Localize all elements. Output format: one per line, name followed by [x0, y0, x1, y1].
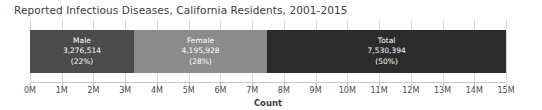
tick-label: 7M: [246, 86, 258, 95]
bar-segment-value: 4,195,928: [134, 46, 267, 57]
chart-container: Reported Infectious Diseases, California…: [0, 0, 542, 110]
chart-title: Reported Infectious Diseases, California…: [14, 4, 348, 16]
tick-label: 14M: [466, 86, 483, 95]
bar-segment-name: Female: [134, 36, 267, 47]
tick-label: 3M: [119, 86, 131, 95]
bar-segment-male[interactable]: Male3,276,514(22%): [30, 30, 134, 73]
tick-label: 12M: [402, 86, 419, 95]
tick-label: 9M: [310, 86, 322, 95]
bar-segment-labels: Male3,276,514(22%): [30, 36, 134, 68]
bar-segment-percent: (50%): [267, 57, 506, 68]
tick-label: 2M: [87, 86, 99, 95]
tick-label: 13M: [434, 86, 451, 95]
bar-segment-name: Total: [267, 36, 506, 47]
tick-label: 8M: [278, 86, 290, 95]
bar-segment-value: 7,530,394: [267, 46, 506, 57]
tick-label: 11M: [371, 86, 388, 95]
bar-segment-total[interactable]: Total7,530,394(50%): [267, 30, 506, 73]
tick-label: 1M: [56, 86, 68, 95]
tick-label: 6M: [214, 86, 226, 95]
bar-segment-labels: Female4,195,928(28%): [134, 36, 267, 68]
plot-area: Male3,276,514(22%)Female4,195,928(28%)To…: [30, 20, 506, 82]
tick-label: 15M: [497, 86, 514, 95]
bar-segment-female[interactable]: Female4,195,928(28%): [134, 30, 267, 73]
gridline: [506, 20, 507, 82]
stacked-bar: Male3,276,514(22%)Female4,195,928(28%)To…: [30, 30, 506, 73]
tick-label: 4M: [151, 86, 163, 95]
x-axis-label: Count: [30, 98, 506, 108]
bar-segment-percent: (22%): [30, 57, 134, 68]
x-axis-ticks: 0M1M2M3M4M5M6M7M8M9M10M11M12M13M14M15M: [30, 83, 506, 97]
bar-segment-name: Male: [30, 36, 134, 47]
bar-segment-percent: (28%): [134, 57, 267, 68]
bar-segment-labels: Total7,530,394(50%): [267, 36, 506, 68]
tick-label: 10M: [339, 86, 356, 95]
tick-label: 0M: [24, 86, 36, 95]
bar-segment-value: 3,276,514: [30, 46, 134, 57]
tick-label: 5M: [183, 86, 195, 95]
